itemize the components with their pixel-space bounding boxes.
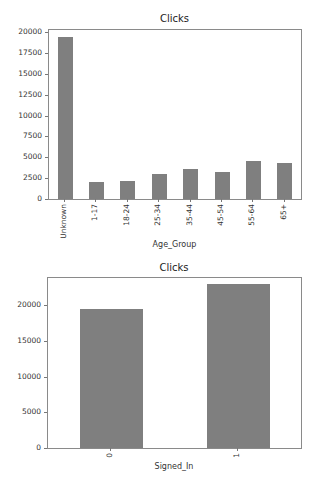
y-tick-mark (44, 412, 47, 413)
chart-title: Clicks (47, 262, 301, 273)
bar (80, 309, 143, 448)
x-tick-mark (110, 448, 111, 451)
y-tick-mark (44, 377, 47, 378)
y-tick-mark (44, 341, 47, 342)
plot-area (47, 277, 302, 449)
bar (207, 284, 270, 448)
y-tick-mark (44, 448, 47, 449)
x-axis-label: Signed_In (47, 462, 301, 471)
x-tick-mark (237, 448, 238, 451)
signed-in-chart: Clicks 05000100001500020000 01 Signed_In (0, 0, 321, 486)
y-tick-label: 15000 (1, 336, 41, 345)
y-tick-label: 0 (1, 443, 41, 452)
y-tick-label: 20000 (1, 300, 41, 309)
y-tick-label: 5000 (1, 407, 41, 416)
y-tick-label: 10000 (1, 372, 41, 381)
y-tick-mark (44, 305, 47, 306)
